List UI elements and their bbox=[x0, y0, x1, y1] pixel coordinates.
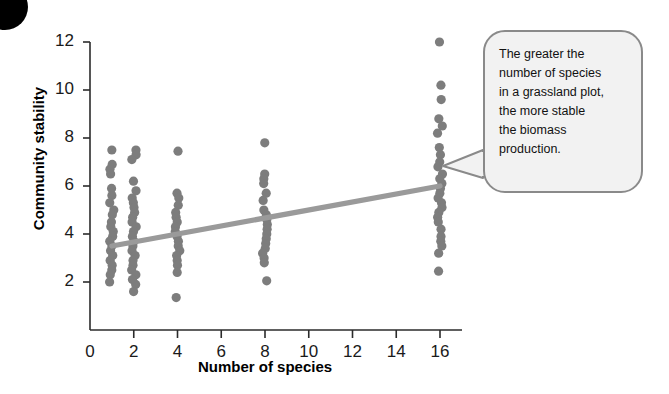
callout-line: the more stable bbox=[499, 102, 631, 121]
y-tick-label: 10 bbox=[44, 79, 74, 99]
annotation-callout: The greater the number of species in a g… bbox=[483, 30, 643, 193]
x-tick-label: 10 bbox=[297, 342, 321, 362]
data-point bbox=[127, 155, 136, 164]
data-point bbox=[106, 169, 115, 178]
x-tick-label: 16 bbox=[428, 342, 452, 362]
data-point bbox=[433, 129, 442, 138]
data-point bbox=[434, 267, 443, 276]
y-tick-label: 2 bbox=[44, 271, 74, 291]
x-tick-label: 2 bbox=[122, 342, 146, 362]
data-point bbox=[437, 95, 446, 104]
y-tick-label: 6 bbox=[44, 175, 74, 195]
data-point bbox=[262, 276, 271, 285]
y-tick-label: 12 bbox=[44, 31, 74, 51]
callout-line: production. bbox=[499, 140, 631, 159]
callout-line: in a grassland plot, bbox=[499, 83, 631, 102]
x-tick-label: 14 bbox=[384, 342, 408, 362]
callout-line: the biomass bbox=[499, 121, 631, 140]
data-point bbox=[434, 249, 443, 258]
scatter-points bbox=[105, 37, 447, 302]
x-tick-label: 6 bbox=[209, 342, 233, 362]
y-tick-label: 8 bbox=[44, 127, 74, 147]
data-point bbox=[172, 293, 181, 302]
data-point bbox=[107, 145, 116, 154]
data-point bbox=[105, 277, 114, 286]
x-tick-label: 8 bbox=[253, 342, 277, 362]
data-point bbox=[173, 147, 182, 156]
callout-line: The greater the bbox=[499, 45, 631, 64]
callout-tail bbox=[443, 150, 483, 178]
data-point bbox=[129, 177, 138, 186]
y-tick-label: 4 bbox=[44, 223, 74, 243]
callout-line: number of species bbox=[499, 64, 631, 83]
data-point bbox=[260, 138, 269, 147]
data-point bbox=[129, 287, 138, 296]
data-point bbox=[173, 268, 182, 277]
data-point bbox=[436, 81, 445, 90]
regression-line bbox=[112, 186, 440, 246]
data-point bbox=[259, 196, 268, 205]
x-tick-label: 0 bbox=[78, 342, 102, 362]
x-tick-label: 12 bbox=[341, 342, 365, 362]
data-point bbox=[259, 179, 268, 188]
figure-container: Community stability Number of species Th… bbox=[0, 0, 669, 394]
data-point bbox=[435, 37, 444, 46]
data-point bbox=[260, 258, 269, 267]
x-tick-label: 4 bbox=[166, 342, 190, 362]
